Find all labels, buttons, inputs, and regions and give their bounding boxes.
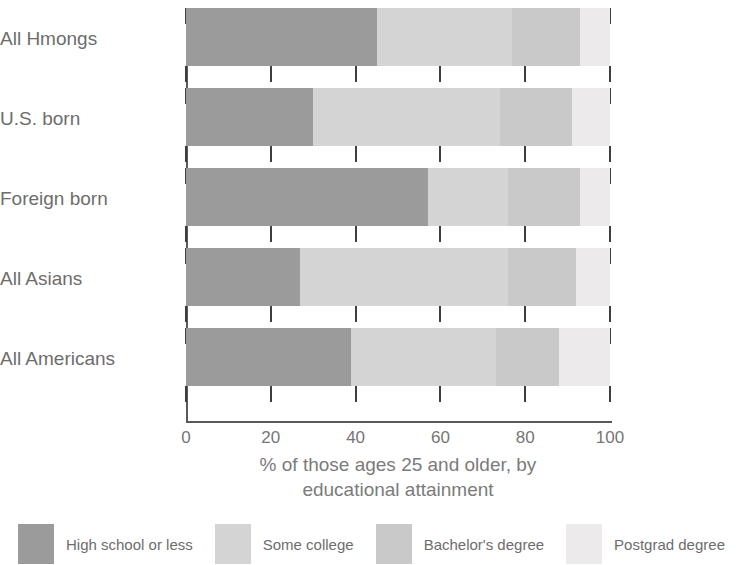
plot-area — [186, 8, 610, 420]
bar-row — [186, 88, 610, 146]
bar-segment[interactable] — [496, 328, 560, 386]
legend-label: Postgrad degree — [614, 536, 725, 553]
x-tick-label: 60 — [431, 428, 450, 448]
bar-segment[interactable] — [351, 328, 495, 386]
legend-item[interactable]: Postgrad degree — [566, 524, 725, 564]
bar-segment[interactable] — [576, 248, 610, 306]
category-label-2: Foreign born — [0, 188, 172, 210]
bar-segment[interactable] — [512, 8, 580, 66]
bar-segment[interactable] — [377, 8, 513, 66]
x-axis-title: % of those ages 25 and older, by educati… — [186, 452, 610, 502]
bar-segment[interactable] — [580, 8, 610, 66]
bar-row — [186, 168, 610, 226]
bar-segment[interactable] — [186, 328, 351, 386]
bar-segment[interactable] — [508, 168, 580, 226]
stacked-bar-chart: All Hmongs U.S. born Foreign born All As… — [0, 0, 736, 565]
category-label-0: All Hmongs — [0, 28, 172, 50]
legend-swatch-icon — [376, 524, 412, 564]
stacked-bar[interactable] — [186, 88, 610, 146]
x-axis-title-line1: % of those ages 25 and older, by — [186, 452, 610, 477]
legend-label: Some college — [263, 536, 354, 553]
bar-segment[interactable] — [313, 88, 500, 146]
x-axis-title-line2: educational attainment — [186, 477, 610, 502]
bar-segment[interactable] — [428, 168, 509, 226]
x-axis-line — [186, 421, 612, 423]
x-tick-label: 0 — [181, 428, 190, 448]
bar-segment[interactable] — [580, 168, 610, 226]
stacked-bar[interactable] — [186, 168, 610, 226]
x-tick-label: 80 — [516, 428, 535, 448]
bar-segment[interactable] — [186, 168, 428, 226]
category-label-3: All Asians — [0, 268, 172, 290]
legend-item[interactable]: High school or less — [18, 524, 193, 564]
bar-row — [186, 8, 610, 66]
x-tick-label: 20 — [261, 428, 280, 448]
legend-swatch-icon — [215, 524, 251, 564]
bar-segment[interactable] — [500, 88, 572, 146]
bar-segment[interactable] — [186, 88, 313, 146]
category-label-4: All Americans — [0, 348, 172, 370]
bar-segment[interactable] — [186, 248, 300, 306]
x-tick-label: 100 — [596, 428, 624, 448]
bar-segment[interactable] — [559, 328, 610, 386]
stacked-bar[interactable] — [186, 8, 610, 66]
legend-label: Bachelor's degree — [424, 536, 544, 553]
chart-legend: High school or lessSome collegeBachelor'… — [18, 524, 736, 564]
bar-segment[interactable] — [508, 248, 576, 306]
category-label-1: U.S. born — [0, 108, 172, 130]
stacked-bar[interactable] — [186, 248, 610, 306]
legend-label: High school or less — [66, 536, 193, 553]
x-tick-label: 40 — [346, 428, 365, 448]
legend-item[interactable]: Some college — [215, 524, 354, 564]
stacked-bar[interactable] — [186, 328, 610, 386]
bar-segment[interactable] — [300, 248, 508, 306]
legend-swatch-icon — [566, 524, 602, 564]
bar-row — [186, 328, 610, 386]
legend-item[interactable]: Bachelor's degree — [376, 524, 544, 564]
bar-row — [186, 248, 610, 306]
bar-segment[interactable] — [186, 8, 377, 66]
bar-segment[interactable] — [572, 88, 610, 146]
legend-swatch-icon — [18, 524, 54, 564]
